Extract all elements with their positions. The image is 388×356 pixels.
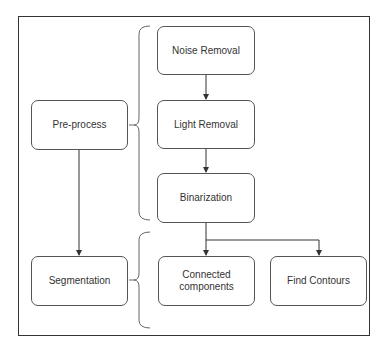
node-noise-removal: Noise Removal — [157, 26, 255, 75]
node-label: Noise Removal — [172, 45, 240, 57]
node-label: Pre-process — [53, 119, 107, 131]
node-light-removal: Light Removal — [157, 100, 255, 149]
node-label: Binarization — [180, 192, 232, 204]
node-segmentation: Segmentation — [31, 256, 128, 306]
node-label: Segmentation — [49, 275, 111, 287]
node-pre-process: Pre-process — [31, 100, 128, 150]
node-binarization: Binarization — [157, 173, 255, 223]
node-label: Find Contours — [287, 275, 350, 287]
node-find-contours: Find Contours — [270, 256, 367, 306]
node-label: Light Removal — [174, 119, 238, 131]
flowchart-canvas: Pre-process Segmentation Noise Removal L… — [0, 0, 388, 356]
node-label: Connected components — [179, 269, 233, 293]
node-connected-components: Connected components — [158, 256, 255, 306]
